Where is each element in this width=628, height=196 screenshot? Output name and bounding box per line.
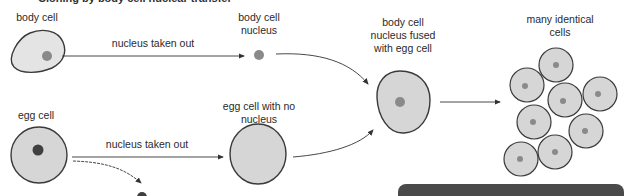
discarded-egg-nucleus-icon [137,192,147,196]
cropped-dark-panel [398,184,624,196]
label-egg-no-nucleus-2: nucleus [241,113,277,126]
arrow-nucleus-to-fused [276,54,368,84]
arrow-enucleated-to-fused [293,130,373,157]
label-fused-3: with egg cell [374,42,432,55]
diagram-graphics [0,0,628,196]
label-body-cell: body cell [16,11,57,24]
label-many-identical-2: cells [549,26,570,39]
label-body-cell-nucleus-1: body cell [238,11,279,24]
label-nucleus-taken-out-top: nucleus taken out [112,37,194,50]
label-fused-1: body cell [382,16,423,29]
label-body-cell-nucleus-2: nucleus [241,24,277,37]
cloning-diagram: Cloning by body cell nuclear transfer [0,0,628,196]
label-nucleus-taken-out-bottom: nucleus taken out [106,138,188,151]
label-fused-2: nucleus fused [371,29,436,42]
fused-cell-icon [377,71,430,133]
label-egg-no-nucleus-1: egg cell with no [223,100,295,113]
label-egg-cell: egg cell [18,109,54,122]
arrow-discarded-nucleus [73,161,141,183]
body-cell-nucleus-icon [254,50,264,60]
enucleated-egg-icon [230,124,286,184]
body-cell-icon [11,30,64,72]
egg-cell-icon [11,127,67,183]
label-many-identical-1: many identical [526,13,593,26]
